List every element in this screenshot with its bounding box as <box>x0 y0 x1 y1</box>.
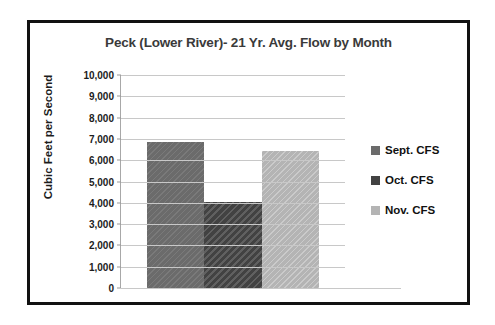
y-tick-mark <box>117 181 121 182</box>
gridline <box>121 182 345 183</box>
gridline <box>121 160 345 161</box>
y-tick-mark <box>117 245 121 246</box>
y-tick-mark <box>117 117 121 118</box>
y-tick-label: 2,000 <box>89 240 114 251</box>
gridline <box>121 267 345 268</box>
y-tick-mark <box>117 138 121 139</box>
legend-swatch-nov <box>371 206 380 215</box>
y-tick-label: 7,000 <box>89 133 114 144</box>
legend-item-nov: Nov. CFS <box>371 195 466 225</box>
gridline <box>121 96 345 97</box>
legend-item-oct: Oct. CFS <box>371 165 466 195</box>
legend-label-nov: Nov. CFS <box>385 204 435 216</box>
chart-title: Peck (Lower River)- 21 Yr. Avg. Flow by … <box>30 35 467 50</box>
x-axis-line <box>121 288 401 289</box>
chart-legend: Sept. CFS Oct. CFS Nov. CFS <box>371 135 466 225</box>
chart-frame: Peck (Lower River)- 21 Yr. Avg. Flow by … <box>27 20 470 305</box>
plot-area: 10,0009,0008,0007,0006,0005,0004,0003,00… <box>121 75 345 288</box>
legend-item-sept: Sept. CFS <box>371 135 466 165</box>
gridline <box>121 224 345 225</box>
y-tick-label: 3,000 <box>89 219 114 230</box>
legend-swatch-sept <box>371 146 380 155</box>
legend-swatch-oct <box>371 176 380 185</box>
y-tick-mark <box>117 266 121 267</box>
gridline <box>121 203 345 204</box>
y-tick-label: 6,000 <box>89 155 114 166</box>
legend-label-sept: Sept. CFS <box>385 144 439 156</box>
y-tick-label: 8,000 <box>89 112 114 123</box>
y-tick-label: 0 <box>108 283 114 294</box>
y-tick-label: 10,000 <box>83 70 114 81</box>
y-tick-label: 5,000 <box>89 176 114 187</box>
legend-label-oct: Oct. CFS <box>385 174 434 186</box>
y-tick-label: 9,000 <box>89 91 114 102</box>
gridline <box>121 139 345 140</box>
y-tick-mark <box>117 75 121 76</box>
y-axis-title: Cubic Feet per Second <box>42 57 54 217</box>
y-tick-mark <box>117 96 121 97</box>
y-tick-mark <box>117 224 121 225</box>
y-tick-mark <box>117 160 121 161</box>
gridline <box>121 118 345 119</box>
y-tick-label: 1,000 <box>89 261 114 272</box>
y-tick-mark <box>117 202 121 203</box>
y-tick-label: 4,000 <box>89 197 114 208</box>
gridline <box>121 245 345 246</box>
gridline <box>121 75 345 76</box>
